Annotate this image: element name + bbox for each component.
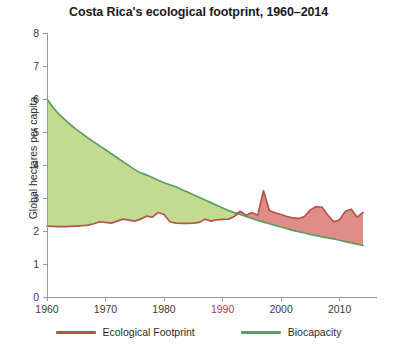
legend-item-ecological-footprint[interactable]: Ecological Footprint <box>56 326 195 338</box>
svg-text:2000: 2000 <box>269 303 293 315</box>
svg-text:8: 8 <box>33 27 39 39</box>
series-areas <box>47 99 363 246</box>
svg-text:1980: 1980 <box>152 303 176 315</box>
svg-text:1: 1 <box>33 258 39 270</box>
chart-figure: Costa Rica's ecological footprint, 1960–… <box>0 0 397 353</box>
y-axis-title: Global hectares per capita <box>27 68 39 248</box>
svg-text:2010: 2010 <box>328 303 352 315</box>
legend-label-biocapacity: Biocapacity <box>288 326 342 338</box>
legend-label-ecological-footprint: Ecological Footprint <box>103 326 195 338</box>
chart-legend: Ecological Footprint Biocapacity <box>0 326 397 338</box>
svg-text:1970: 1970 <box>94 303 118 315</box>
legend-item-biocapacity[interactable]: Biocapacity <box>241 326 342 338</box>
svg-text:1990: 1990 <box>211 303 235 315</box>
svg-text:1960: 1960 <box>35 303 59 315</box>
chart-plot-area: 012345678196019701980199020002010 <box>0 0 397 353</box>
legend-swatch-ecological-footprint <box>56 331 96 334</box>
legend-swatch-biocapacity <box>241 331 281 334</box>
svg-text:0: 0 <box>33 291 39 303</box>
